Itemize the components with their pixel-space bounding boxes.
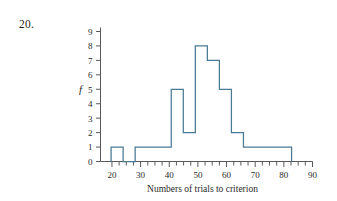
x-tick-label-50: 50 [193,170,203,180]
x-tick-label-40: 40 [165,170,175,180]
histogram-bar-12 [255,147,267,161]
x-tick-label-80: 80 [279,170,289,180]
histogram-bar-2 [135,147,147,161]
y-tick-label-8: 8 [88,41,93,51]
histogram-bar-9 [219,89,231,161]
y-tick-label-6: 6 [88,70,93,80]
figure-container: 20. 0123456789f2030405060708090Numbers o… [0,0,337,201]
x-tick-label-60: 60 [222,170,232,180]
histogram-bar-0 [111,147,123,161]
x-tick-label-30: 30 [136,170,146,180]
histogram-bar-4 [159,147,171,161]
y-tick-label-2: 2 [88,128,93,138]
y-tick-label-7: 7 [88,56,93,66]
histogram-svg: 0123456789f2030405060708090Numbers of tr… [0,0,337,201]
y-tick-label-4: 4 [88,99,93,109]
histogram-bar-11 [243,147,255,161]
x-axis-title: Numbers of trials to criterion [147,184,258,194]
histogram-bar-6 [183,133,195,162]
x-tick-label-70: 70 [251,170,261,180]
histogram-bar-3 [147,147,159,161]
y-tick-label-3: 3 [88,114,93,124]
histogram-bar-8 [207,60,219,161]
x-tick-label-20: 20 [107,170,117,180]
histogram-bar-13 [268,147,280,161]
histogram-bar-10 [231,133,243,162]
y-tick-label-9: 9 [88,27,93,37]
histogram-bar-5 [171,89,183,161]
x-tick-label-90: 90 [308,170,318,180]
y-tick-label-5: 5 [88,85,93,95]
y-axis-title: f [79,83,84,95]
y-tick-label-1: 1 [88,142,93,152]
histogram-bar-7 [195,46,207,162]
y-tick-label-0: 0 [88,157,93,167]
histogram-bar-14 [280,147,292,161]
histogram-chart: 0123456789f2030405060708090Numbers of tr… [0,0,337,201]
